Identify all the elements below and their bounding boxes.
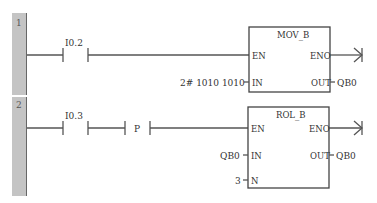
pin-out: OUT <box>310 151 330 161</box>
out-value-rol-b[interactable]: QB0 <box>336 151 356 161</box>
block-title-mov-b[interactable]: MOV_B <box>277 30 309 40</box>
ladder-wiring <box>0 0 377 203</box>
pin-out: OUT <box>311 78 331 88</box>
pin-eno: ENO <box>309 124 330 134</box>
out-value-mov-b[interactable]: QB0 <box>337 78 357 88</box>
pin-in: IN <box>251 151 262 161</box>
in-value-mov-b[interactable]: 2# 1010 1010 <box>180 78 245 88</box>
contact-address-i0-2[interactable]: I0.2 <box>65 38 83 48</box>
pin-in: IN <box>252 78 263 88</box>
block-title-rol-b[interactable]: ROL_B <box>276 110 306 120</box>
in-value-rol-b[interactable]: QB0 <box>220 151 240 161</box>
contact-label-p[interactable]: P <box>134 124 140 134</box>
contact-address-i0-3[interactable]: I0.3 <box>65 111 83 121</box>
pin-eno: ENO <box>310 51 331 61</box>
pin-en: EN <box>251 124 265 134</box>
pin-n: N <box>251 176 258 186</box>
pin-en: EN <box>252 51 266 61</box>
n-value-rol-b[interactable]: 3 <box>235 176 241 186</box>
